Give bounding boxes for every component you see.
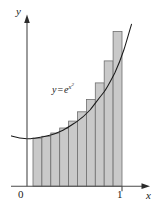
- origin-tick-label: 0: [18, 188, 24, 200]
- y-axis-arrowhead: [24, 15, 30, 24]
- riemann-sum-plot: [0, 0, 161, 212]
- figure-canvas: y x 0 1 y=ex2: [0, 0, 161, 212]
- bar-rect: [113, 32, 122, 187]
- bar-rect: [42, 136, 51, 186]
- equation-exponent: x2: [69, 83, 74, 90]
- bar-rect: [69, 121, 78, 186]
- bar-rect: [95, 83, 104, 186]
- curve-equation-label: y=ex2: [52, 82, 74, 95]
- bar-rect: [33, 138, 42, 186]
- x-tick-label-one: 1: [117, 188, 123, 200]
- bar-rect: [78, 112, 87, 186]
- y-axis: [24, 15, 30, 187]
- equation-equals: =: [56, 84, 64, 95]
- y-axis-label: y: [16, 5, 21, 17]
- bar-rect: [51, 133, 60, 186]
- x-axis-label: x: [146, 189, 151, 201]
- riemann-rectangles: [33, 32, 122, 187]
- bar-rect: [60, 128, 69, 186]
- equation-exponent-power: 2: [71, 82, 74, 87]
